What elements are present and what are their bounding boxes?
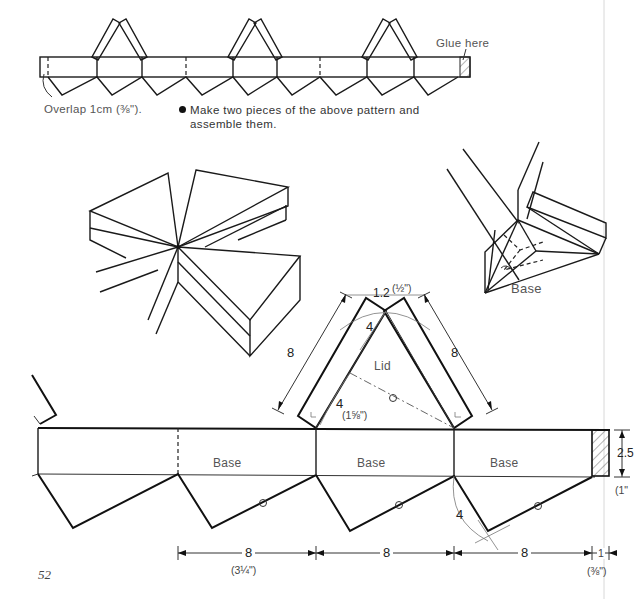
lid-half-inch-dim: (1⅝") [342, 410, 367, 421]
instruction-note: Make two pieces of the above pattern and… [179, 103, 420, 131]
segment-3-dim: 8 [518, 546, 531, 559]
lid-label: Lid [374, 360, 391, 372]
base-radius-dim: 4 [456, 508, 463, 521]
assembled-box-illustration [90, 170, 300, 356]
glue-here-label: Glue here [436, 38, 489, 50]
base-label-illustration: Base [511, 282, 542, 295]
page-number: 52 [38, 568, 51, 581]
segment-1-inch-dim: (3¼") [231, 565, 256, 576]
bullet-icon [179, 106, 186, 113]
base-label-1: Base [213, 457, 242, 469]
strip-height-dim: 2.5 [617, 447, 634, 459]
base-label-2: Base [357, 457, 386, 469]
strip-height-inch-dim: (1" [615, 485, 628, 496]
folding-box-illustration [447, 142, 606, 293]
base-label-3: Base [490, 457, 519, 469]
top-strip-pattern [40, 19, 470, 97]
lid-top-gap-inch-dim: (½") [392, 283, 411, 294]
instruction-line-1: Make two pieces of the above pattern and [190, 104, 420, 116]
lid-half-upper-dim: 4 [366, 320, 373, 333]
detail-pattern [32, 292, 630, 560]
segment-1-dim: 8 [242, 546, 255, 559]
overlap-inch-dim: (⅜") [587, 566, 606, 577]
overlap-dim: 1 [597, 548, 605, 559]
instruction-line-2: assemble them. [179, 118, 277, 130]
overlap-label: Overlap 1cm (⅜"). [44, 104, 142, 116]
segment-2-dim: 8 [380, 546, 393, 559]
lid-side-right-dim: 8 [451, 346, 458, 359]
lid-top-gap-dim: 1.2 [373, 287, 390, 299]
lid-side-left-dim: 8 [287, 346, 294, 359]
